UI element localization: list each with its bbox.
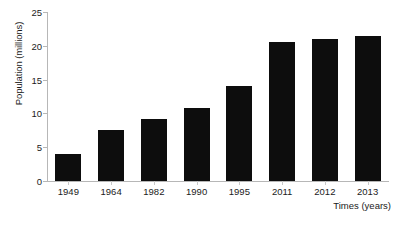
bars-layer	[47, 12, 389, 181]
x-axis-title: Times (years)	[333, 200, 391, 211]
bar-slot	[175, 12, 218, 181]
x-tick-mark	[68, 181, 69, 185]
x-tick-mark	[111, 181, 112, 185]
bar	[141, 119, 167, 181]
y-tick-label: 20	[31, 40, 42, 51]
bar	[355, 36, 381, 181]
y-tick-label: 5	[37, 142, 42, 153]
bar	[312, 39, 338, 181]
x-tick-label: 2013	[357, 186, 378, 197]
bar-slot	[218, 12, 261, 181]
x-tick-label: 1990	[186, 186, 207, 197]
x-tick-mark	[368, 181, 369, 185]
x-tick-label: 2011	[272, 186, 292, 197]
x-tick-mark	[325, 181, 326, 185]
x-tick-label: 1949	[58, 186, 79, 197]
bar-slot	[261, 12, 304, 181]
bar	[269, 42, 295, 181]
x-tick-label: 1995	[229, 186, 250, 197]
y-tick-label: 25	[31, 7, 42, 18]
x-tick-mark	[197, 181, 198, 185]
x-axis-line	[47, 181, 389, 182]
bar	[98, 130, 124, 181]
bar	[226, 86, 252, 181]
x-tick-label: 1964	[101, 186, 122, 197]
bar-slot	[47, 12, 90, 181]
x-tick-mark	[239, 181, 240, 185]
bar-slot	[304, 12, 347, 181]
bar-chart-figure: Population (millions) 0510152025 1949196…	[0, 0, 397, 226]
bar	[184, 108, 210, 181]
y-tick-label: 15	[31, 74, 42, 85]
bar-slot	[346, 12, 389, 181]
x-tick-mark	[154, 181, 155, 185]
bar	[55, 154, 81, 181]
plot-area: 0510152025 19491964198219901995201120122…	[47, 12, 389, 181]
y-axis-title: Population (millions)	[13, 0, 24, 134]
bar-slot	[133, 12, 176, 181]
x-tick-label: 1982	[143, 186, 164, 197]
x-tick-label: 2012	[314, 186, 335, 197]
x-tick-mark	[282, 181, 283, 185]
y-tick-label: 10	[31, 108, 42, 119]
y-tick-label: 0	[37, 176, 42, 187]
bar-slot	[90, 12, 133, 181]
y-tick-mark	[43, 181, 47, 182]
